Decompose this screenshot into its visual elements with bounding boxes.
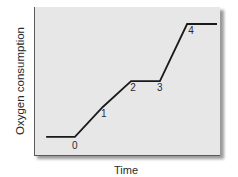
point-labels: 01234 [72,25,194,151]
point-label-1: 1 [101,108,107,119]
point-label-2: 2 [130,82,136,93]
y-axis-label: Oxygen consumption [14,27,26,135]
x-axis-label: Time [114,164,138,176]
chart-canvas: 01234 [0,0,238,177]
oxygen-consumption-line [46,24,217,137]
chart-figure: 01234 Oxygen consumption Time [0,0,238,177]
point-label-4: 4 [188,25,194,36]
point-label-3: 3 [157,82,163,93]
point-label-0: 0 [72,140,78,151]
